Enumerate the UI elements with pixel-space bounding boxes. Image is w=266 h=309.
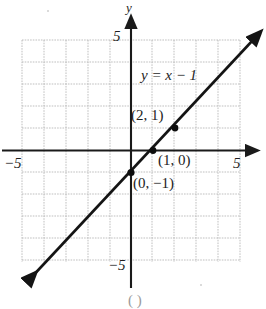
scan-speck xyxy=(47,10,49,12)
point-label-2-1: (2, 1) xyxy=(131,108,164,123)
data-point-1-0 xyxy=(150,147,157,154)
y-tick-label-5: 5 xyxy=(113,29,121,44)
cropped-bottom-text: ( ) xyxy=(128,292,142,309)
x-tick-label-neg5: −5 xyxy=(4,156,22,171)
equation-label: y = x − 1 xyxy=(141,68,197,83)
point-label-0-neg1: (0, −1) xyxy=(133,176,174,191)
y-axis-name: y xyxy=(126,1,132,14)
scan-speck xyxy=(200,284,202,286)
x-tick-label-5: 5 xyxy=(233,156,241,171)
y-tick-label-neg5: −5 xyxy=(108,258,126,273)
point-label-1-0: (1, 0) xyxy=(158,153,191,168)
data-point-2-1 xyxy=(172,125,179,132)
